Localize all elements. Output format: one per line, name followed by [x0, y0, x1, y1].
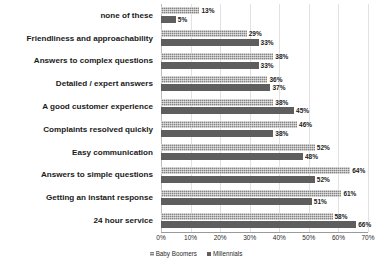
- bar-group-boomers: 64%: [161, 167, 365, 174]
- legend-item-millennials: Millennials: [207, 250, 242, 257]
- bar-millennials: [161, 84, 270, 91]
- bar-group-millennials: 52%: [161, 176, 330, 183]
- bar-value-label: 58%: [335, 213, 348, 220]
- bar-value-label: 61%: [343, 190, 356, 197]
- legend-swatch-icon: [150, 252, 154, 256]
- bar-value-label: 38%: [275, 53, 288, 60]
- bar-millennials: [161, 153, 303, 160]
- bar-value-label: 36%: [269, 76, 282, 83]
- bar-boomers: [161, 167, 350, 174]
- category-label: none of these: [0, 4, 157, 27]
- category-label: Answers to simple questions: [0, 164, 157, 187]
- bar-rows: 13%5%29%33%38%33%36%37%38%45%46%38%52%48…: [161, 4, 368, 232]
- category-axis-labels: none of these Friendliness and approacha…: [0, 4, 157, 232]
- x-tick-label: 40%: [273, 234, 286, 241]
- x-tick-label: 0%: [156, 234, 165, 241]
- bar-group-boomers: 38%: [161, 53, 288, 60]
- x-tick-label: 10%: [184, 234, 197, 241]
- bar-boomers: [161, 30, 247, 37]
- bar-group-millennials: 33%: [161, 62, 274, 69]
- x-tick-label: 60%: [332, 234, 345, 241]
- bar-millennials: [161, 130, 273, 137]
- bar-value-label: 13%: [201, 7, 214, 14]
- bar-millennials: [161, 39, 259, 46]
- legend-swatch-icon: [207, 252, 211, 256]
- x-tick-label: 30%: [243, 234, 256, 241]
- bar-group-boomers: 13%: [161, 7, 214, 14]
- bar-value-label: 29%: [249, 30, 262, 37]
- category-label: Detailed / expert answers: [0, 72, 157, 95]
- bar-value-label: 64%: [352, 167, 365, 174]
- bar-millennials: [161, 176, 315, 183]
- x-tick-label: 50%: [302, 234, 315, 241]
- category-label: Complaints resolved quickly: [0, 118, 157, 141]
- bar-value-label: 51%: [314, 198, 327, 205]
- bar-boomers: [161, 53, 273, 60]
- bar-row: 36%37%: [161, 72, 368, 95]
- bar-millennials: [161, 107, 294, 114]
- category-label: Easy communication: [0, 141, 157, 164]
- bar-boomers: [161, 99, 273, 106]
- plot-area: 13%5%29%33%38%33%36%37%38%45%46%38%52%48…: [161, 4, 368, 232]
- bar-value-label: 5%: [178, 16, 187, 23]
- bar-row: 29%33%: [161, 27, 368, 50]
- bar-group-millennials: 38%: [161, 130, 288, 137]
- category-label: Friendliness and approachability: [0, 27, 157, 50]
- bar-group-millennials: 51%: [161, 198, 327, 205]
- bar-row: 64%52%: [161, 164, 368, 187]
- bar-boomers: [161, 144, 315, 151]
- gridline: [368, 4, 369, 232]
- category-label: Getting an instant response: [0, 186, 157, 209]
- bar-row: 46%38%: [161, 118, 368, 141]
- x-axis-line: [161, 232, 368, 233]
- bar-value-label: 38%: [275, 99, 288, 106]
- bar-value-label: 38%: [275, 130, 288, 137]
- bar-value-label: 45%: [296, 107, 309, 114]
- bar-group-millennials: 5%: [161, 16, 187, 23]
- bar-value-label: 46%: [299, 121, 312, 128]
- bar-group-boomers: 36%: [161, 76, 282, 83]
- bar-value-label: 66%: [358, 221, 371, 228]
- bar-millennials: [161, 198, 312, 205]
- bar-value-label: 52%: [317, 144, 330, 151]
- legend: Baby Boomers Millennials: [0, 250, 392, 257]
- bar-value-label: 52%: [317, 176, 330, 183]
- bar-group-boomers: 58%: [161, 213, 348, 220]
- bar-millennials: [161, 62, 259, 69]
- bar-group-boomers: 38%: [161, 99, 288, 106]
- bar-boomers: [161, 190, 341, 197]
- bar-value-label: 37%: [272, 84, 285, 91]
- bar-row: 52%48%: [161, 141, 368, 164]
- bar-millennials: [161, 16, 176, 23]
- bar-row: 58%66%: [161, 209, 368, 232]
- category-label: 24 hour service: [0, 209, 157, 232]
- x-tick-label: 20%: [214, 234, 227, 241]
- bar-chart: none of these Friendliness and approacha…: [0, 0, 392, 272]
- bar-group-millennials: 37%: [161, 84, 285, 91]
- bar-group-boomers: 29%: [161, 30, 262, 37]
- bar-millennials: [161, 221, 356, 228]
- bar-row: 38%33%: [161, 50, 368, 73]
- bar-group-boomers: 61%: [161, 190, 356, 197]
- legend-label: Baby Boomers: [156, 250, 197, 257]
- bar-boomers: [161, 213, 333, 220]
- category-label: A good customer experience: [0, 95, 157, 118]
- legend-label: Millennials: [213, 250, 242, 257]
- bar-row: 61%51%: [161, 186, 368, 209]
- bar-boomers: [161, 121, 297, 128]
- bar-group-millennials: 66%: [161, 221, 371, 228]
- legend-item-baby-boomers: Baby Boomers: [150, 250, 197, 257]
- bar-group-millennials: 45%: [161, 107, 309, 114]
- bar-boomers: [161, 76, 267, 83]
- bar-group-boomers: 52%: [161, 144, 330, 151]
- x-tick-label: 70%: [361, 234, 374, 241]
- category-label: Answers to complex questions: [0, 50, 157, 73]
- bar-row: 13%5%: [161, 4, 368, 27]
- bar-group-millennials: 48%: [161, 153, 318, 160]
- bar-boomers: [161, 7, 199, 14]
- x-axis-ticks: 0%10%20%30%40%50%60%70%: [161, 234, 368, 246]
- bar-group-boomers: 46%: [161, 121, 312, 128]
- bar-group-millennials: 33%: [161, 39, 274, 46]
- bar-value-label: 48%: [305, 153, 318, 160]
- bar-value-label: 33%: [261, 39, 274, 46]
